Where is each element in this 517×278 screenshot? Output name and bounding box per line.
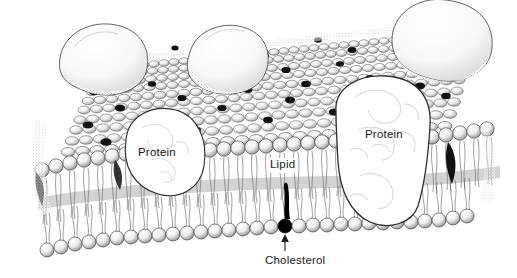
- integral-protein-right: [336, 76, 430, 226]
- surface-protein-1: [59, 24, 147, 95]
- membrane-illustration: [0, 0, 517, 278]
- cholesterol-molecule: [278, 219, 292, 233]
- surface-protein-2: [187, 25, 268, 94]
- label-lipid: Lipid: [268, 158, 297, 173]
- surface-protein-3: [392, 0, 492, 82]
- label-protein-left: Protein: [138, 147, 176, 159]
- label-protein-right: Protein: [365, 129, 403, 141]
- label-cholesterol: Cholesterol: [265, 255, 325, 267]
- arrow-head-icon: [281, 234, 289, 242]
- cholesterol-leader: [281, 234, 289, 251]
- cell-membrane-figure: Protein Protein Lipid Cholesterol: [0, 0, 517, 278]
